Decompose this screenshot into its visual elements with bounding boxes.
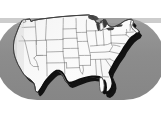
us-map-illustration	[0, 0, 161, 115]
map-graphic-canvas: Map of the contiguous United States	[0, 0, 161, 115]
florida-peninsula	[99, 78, 104, 93]
